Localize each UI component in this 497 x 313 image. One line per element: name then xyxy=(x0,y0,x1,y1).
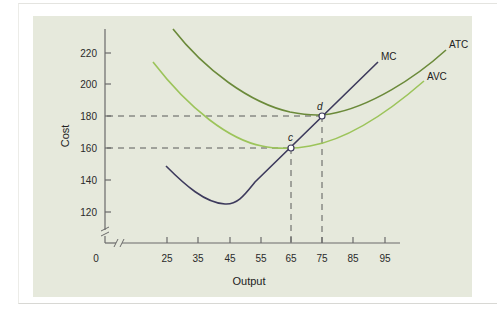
x-tick-45: 45 xyxy=(224,253,236,264)
x-tick-35: 35 xyxy=(192,253,204,264)
y-tick-160: 160 xyxy=(80,143,97,154)
y-tick-120: 120 xyxy=(80,207,97,218)
axes xyxy=(105,29,400,243)
x-tick-65: 65 xyxy=(285,253,297,264)
x-tick-55: 55 xyxy=(255,253,267,264)
y-tick-200: 200 xyxy=(80,79,97,90)
x-tick-0: 0 xyxy=(93,253,99,264)
atc-label: ATC xyxy=(449,39,468,50)
point-c-label: c xyxy=(288,132,293,143)
x-tick-75: 75 xyxy=(316,253,328,264)
x-axis-title: Output xyxy=(232,275,265,287)
point-d-marker xyxy=(319,113,325,119)
y-tick-180: 180 xyxy=(80,111,97,122)
y-tick-220: 220 xyxy=(80,48,97,59)
y-axis-title: Cost xyxy=(59,125,71,148)
mc-curve xyxy=(166,62,378,204)
point-d-label: d xyxy=(317,101,323,112)
y-tick-140: 140 xyxy=(80,175,97,186)
cost-curves-chart: c d MC ATC AVC 220 200 180 160 140 120 0… xyxy=(0,0,497,313)
point-c-marker xyxy=(288,145,294,151)
x-tick-85: 85 xyxy=(347,253,359,264)
x-tick-25: 25 xyxy=(161,253,173,264)
atc-curve xyxy=(173,29,446,115)
x-tick-95: 95 xyxy=(379,253,391,264)
avc-label: AVC xyxy=(427,71,447,82)
mc-label: MC xyxy=(381,51,397,62)
